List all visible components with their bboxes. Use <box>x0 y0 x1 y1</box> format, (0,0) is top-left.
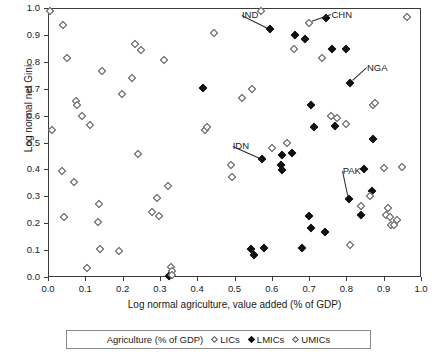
y-tick-label: 0.8 <box>2 56 40 67</box>
x-axis-label: Log normal agriculture, value added (% o… <box>48 299 421 310</box>
x-tick-label: 0.1 <box>65 283 105 294</box>
y-tick <box>44 250 48 251</box>
legend-item-lics[interactable]: LICs <box>212 334 240 345</box>
x-tick-label: 0.7 <box>289 283 329 294</box>
y-tick <box>44 35 48 36</box>
x-tick <box>272 277 273 281</box>
x-tick-label: 0.6 <box>252 283 292 294</box>
x-tick <box>197 277 198 281</box>
y-tick-label: 0.5 <box>2 137 40 148</box>
y-tick-label: 0.4 <box>2 163 40 174</box>
x-tick <box>384 277 385 281</box>
y-tick <box>44 223 48 224</box>
y-tick-label: 0.6 <box>2 110 40 121</box>
lmics-marker-icon <box>248 336 255 343</box>
x-tick <box>48 277 49 281</box>
x-tick-label: 0.9 <box>364 283 404 294</box>
y-tick-label: 0.0 <box>2 271 40 282</box>
x-tick <box>160 277 161 281</box>
y-tick <box>44 169 48 170</box>
y-tick-label: 0.3 <box>2 190 40 201</box>
y-axis-label: Log normal net Gini <box>23 29 34 189</box>
y-tick-label: 0.9 <box>2 29 40 40</box>
y-tick <box>44 62 48 63</box>
legend-label-lics: LICs <box>220 334 240 345</box>
scatter-chart-figure: 0.00.10.20.30.40.50.60.70.80.91.00.00.10… <box>0 0 435 359</box>
y-tick-label: 1.0 <box>2 2 40 13</box>
y-tick-label: 0.1 <box>2 244 40 255</box>
y-tick <box>44 89 48 90</box>
x-tick <box>346 277 347 281</box>
x-tick <box>85 277 86 281</box>
y-tick <box>44 277 48 278</box>
y-tick-label: 0.2 <box>2 217 40 228</box>
y-tick <box>44 116 48 117</box>
y-tick <box>44 196 48 197</box>
x-tick <box>123 277 124 281</box>
lics-marker-icon <box>211 336 218 343</box>
x-tick <box>421 277 422 281</box>
x-tick-label: 0.4 <box>177 283 217 294</box>
annotation-label-ind: IND <box>242 9 258 20</box>
x-tick-label: 0.2 <box>103 283 143 294</box>
y-tick-label: 0.7 <box>2 83 40 94</box>
umics-marker-icon <box>292 336 299 343</box>
legend-label-umics: UMICs <box>301 334 330 345</box>
x-tick-label: 1.0 <box>401 283 435 294</box>
x-tick-label: 0.8 <box>326 283 366 294</box>
x-tick-label: 0.0 <box>28 283 68 294</box>
legend-item-umics[interactable]: UMICs <box>293 334 330 345</box>
x-tick-label: 0.3 <box>140 283 180 294</box>
x-tick <box>309 277 310 281</box>
legend-label-lmics: LMICs <box>257 334 284 345</box>
legend-title: Agriculture (% of GDP) <box>107 334 204 345</box>
annotation-label-chn: CHN <box>331 9 352 20</box>
y-tick <box>44 143 48 144</box>
x-tick <box>235 277 236 281</box>
chart-legend: Agriculture (% of GDP) LICs LMICs UMICs <box>66 330 371 349</box>
x-tick-label: 0.5 <box>215 283 255 294</box>
annotation-label-pak: PAK <box>343 165 361 176</box>
legend-item-lmics[interactable]: LMICs <box>249 334 284 345</box>
annotation-label-nga: NGA <box>367 62 388 73</box>
